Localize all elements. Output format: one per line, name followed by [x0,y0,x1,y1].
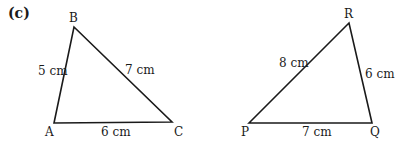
triangle-pqr [249,23,372,123]
side-ab-length: 5 cm [38,65,68,77]
vertex-b-label: B [69,12,78,24]
side-bc-length: 7 cm [125,64,155,76]
vertex-r-label: R [344,8,353,20]
side-ac-length: 6 cm [101,126,131,138]
side-rq-length: 6 cm [365,68,395,80]
side-pr-length: 8 cm [279,57,309,69]
vertex-c-label: C [174,126,183,138]
vertex-p-label: P [241,126,249,138]
vertex-a-label: A [45,126,54,138]
part-label: (c) [8,7,30,19]
vertex-q-label: Q [370,126,380,138]
side-pq-length: 7 cm [302,126,332,138]
